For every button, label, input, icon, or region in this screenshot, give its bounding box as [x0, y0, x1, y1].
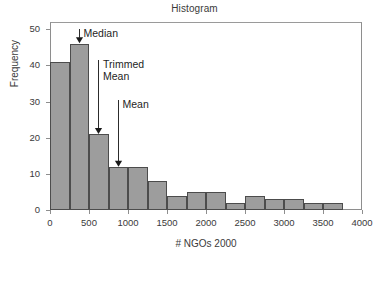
y-tick-mark [46, 65, 50, 66]
x-tick-mark [206, 210, 207, 214]
y-tick-mark [46, 138, 50, 139]
histogram-bar [304, 203, 324, 210]
annotation-arrow-icon [75, 29, 84, 43]
plot-area: MedianTrimmed MeanMean [50, 22, 362, 210]
annotation-label: Median [84, 27, 118, 39]
x-tick-mark [245, 210, 246, 214]
x-tick-mark [128, 210, 129, 214]
y-tick-label: 20 [14, 132, 40, 143]
histogram-bar [167, 196, 187, 210]
histogram-bar [226, 203, 246, 210]
histogram-bar [284, 199, 304, 210]
annotation-arrow-icon [114, 100, 123, 167]
y-tick-label: 0 [14, 204, 40, 215]
histogram-bar [148, 181, 168, 210]
x-tick-label: 500 [69, 217, 109, 228]
histogram-bar [50, 62, 70, 210]
x-tick-label: 2000 [186, 217, 226, 228]
histogram-bar [128, 167, 148, 210]
x-tick-mark [167, 210, 168, 214]
histogram-figure: Histogram MedianTrimmed MeanMean 0102030… [0, 0, 389, 281]
y-tick-mark [46, 102, 50, 103]
x-tick-mark [89, 210, 90, 214]
histogram-bar [323, 203, 343, 210]
y-tick-label: 10 [14, 168, 40, 179]
histogram-bar [245, 196, 265, 210]
histogram-bar [265, 199, 285, 210]
x-tick-label: 0 [30, 217, 70, 228]
histogram-bar [109, 167, 129, 210]
x-tick-label: 1000 [108, 217, 148, 228]
annotation-label: Trimmed Mean [103, 58, 144, 82]
x-axis-title: # NGOs 2000 [50, 238, 362, 249]
x-tick-mark [362, 210, 363, 214]
histogram-bar [187, 192, 207, 210]
y-axis-title: Frequency [9, 4, 20, 124]
x-tick-label: 2500 [225, 217, 265, 228]
annotation-label: Mean [123, 98, 149, 110]
x-tick-mark [323, 210, 324, 214]
x-tick-mark [50, 210, 51, 214]
annotation-arrow-icon [94, 60, 103, 134]
histogram-bar [206, 192, 226, 210]
histogram-bar [89, 134, 109, 210]
histogram-bar [70, 44, 90, 210]
y-tick-mark [46, 29, 50, 30]
x-tick-label: 1500 [147, 217, 187, 228]
x-tick-mark [284, 210, 285, 214]
chart-title: Histogram [0, 3, 389, 14]
y-tick-mark [46, 174, 50, 175]
x-tick-label: 3500 [303, 217, 343, 228]
x-tick-label: 3000 [264, 217, 304, 228]
x-tick-label: 4000 [342, 217, 382, 228]
